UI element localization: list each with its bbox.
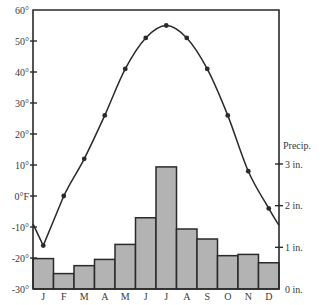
month-label: J (164, 291, 168, 302)
temperature-tick-label: 30° (15, 98, 29, 109)
precipitation-bar (156, 167, 177, 289)
climate-chart: 60°50°40°30°20°10°0°F-10°-20°-30° 3 in.2… (0, 0, 320, 305)
precipitation-tick-label: 1 in. (285, 242, 303, 253)
precipitation-tick-label: 2 in. (285, 200, 303, 211)
precipitation-axis-title: Precip. (283, 140, 311, 151)
temperature-point (164, 23, 169, 28)
temperature-point (266, 206, 271, 211)
temperature-point (102, 113, 107, 118)
precipitation-bar (95, 259, 116, 289)
temperature-point (41, 243, 46, 248)
precipitation-bar (115, 244, 136, 289)
temperature-tick-label: -10° (12, 222, 29, 233)
precipitation-tick-label: 3 in. (285, 159, 303, 170)
precipitation-bar (33, 259, 54, 289)
month-label: N (245, 291, 252, 302)
month-label: O (224, 291, 231, 302)
month-label: M (80, 291, 89, 302)
temperature-point (82, 156, 87, 161)
temperature-tick-label: -30° (12, 284, 29, 295)
precipitation-bar (177, 229, 198, 289)
precipitation-tick-label: 0 in. (285, 284, 303, 295)
month-label: J (41, 291, 45, 302)
precipitation-bar (136, 218, 157, 289)
temperature-tick-label: 60° (15, 5, 29, 16)
month-label: F (61, 291, 67, 302)
month-axis: JFMAMJJASOND (41, 291, 272, 302)
precipitation-bar (238, 254, 259, 289)
temperature-point (205, 67, 210, 72)
month-label: J (144, 291, 148, 302)
temperature-tick-label: 40° (15, 67, 29, 78)
month-label: S (204, 291, 210, 302)
month-label: D (265, 291, 272, 302)
temperature-tick-label: 0°F (14, 191, 29, 202)
temperature-point (246, 169, 251, 174)
temperature-point (184, 36, 189, 41)
precipitation-bar (74, 266, 95, 289)
precipitation-bar (197, 239, 218, 289)
precipitation-bar (259, 263, 280, 289)
temperature-point (61, 194, 66, 199)
temperature-tick-label: 20° (15, 129, 29, 140)
precipitation-bar (54, 274, 75, 289)
precipitation-bar (218, 256, 239, 289)
month-label: A (101, 291, 109, 302)
temperature-point (225, 113, 230, 118)
temperature-tick-label: 10° (15, 160, 29, 171)
temperature-tick-label: 50° (15, 36, 29, 47)
temperature-tick-label: -20° (12, 253, 29, 264)
temperature-point (143, 36, 148, 41)
month-label: A (183, 291, 191, 302)
month-label: M (121, 291, 130, 302)
temperature-point (123, 67, 128, 72)
